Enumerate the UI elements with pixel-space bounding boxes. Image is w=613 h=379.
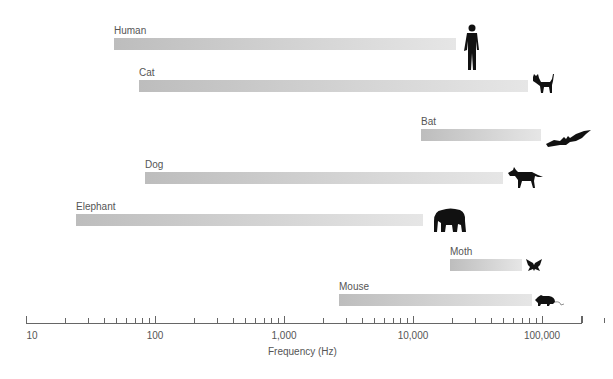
bar-elephant	[76, 214, 423, 226]
elephant-icon	[432, 207, 468, 233]
axis-tick	[362, 318, 363, 323]
bar-human	[114, 38, 456, 50]
axis-tick	[522, 318, 523, 323]
axis-tick	[149, 318, 150, 323]
axis-tick	[413, 316, 414, 323]
axis-tick	[529, 318, 530, 323]
axis-tick	[491, 318, 492, 323]
axis-tick	[407, 318, 408, 323]
label-elephant: Elephant	[76, 201, 115, 212]
axis-tick	[374, 318, 375, 323]
dog-icon	[508, 167, 544, 189]
tick-label-10: 10	[26, 330, 37, 341]
human-icon	[461, 24, 483, 72]
axis-tick	[233, 318, 234, 323]
axis-tick	[452, 318, 453, 323]
label-mouse: Mouse	[339, 281, 369, 292]
axis-tick	[536, 318, 537, 323]
axis-tick	[142, 318, 143, 323]
axis-tick	[271, 318, 272, 323]
axis-tick	[346, 318, 347, 323]
axis-tick	[255, 318, 256, 323]
axis-tick	[155, 316, 156, 323]
label-moth: Moth	[450, 246, 472, 257]
axis-tick	[513, 318, 514, 323]
axis-tick	[278, 318, 279, 323]
cat-icon	[532, 73, 556, 95]
moth-icon	[526, 259, 542, 272]
x-axis-title: Frequency (Hz)	[268, 346, 337, 357]
tick-label-10000: 10,000	[398, 330, 429, 341]
bar-dog	[145, 172, 503, 184]
axis-tick	[245, 318, 246, 323]
bar-moth	[450, 259, 522, 271]
label-cat: Cat	[139, 67, 155, 78]
axis-tick	[104, 318, 105, 323]
axis-tick	[475, 318, 476, 323]
axis-tick	[284, 316, 285, 323]
axis-tick	[217, 318, 218, 323]
bar-cat	[139, 80, 528, 92]
axis-tick	[393, 318, 394, 323]
axis-tick	[126, 318, 127, 323]
axis-tick	[542, 316, 543, 323]
bar-bat	[421, 129, 541, 141]
axis-tick	[604, 318, 605, 323]
axis-tick	[116, 318, 117, 323]
axis-tick	[65, 318, 66, 323]
axis-tick	[26, 316, 27, 323]
axis-tick	[384, 318, 385, 323]
axis-tick	[400, 318, 401, 323]
bat-icon	[546, 128, 592, 148]
tick-label-100000: 100,000	[524, 330, 560, 341]
axis-tick	[323, 318, 324, 323]
label-bat: Bat	[421, 116, 436, 127]
bar-mouse	[339, 294, 532, 306]
axis-tick	[88, 318, 89, 323]
mouse-icon	[535, 294, 565, 308]
x-axis-line	[26, 323, 582, 324]
tick-label-1000: 1,000	[271, 330, 296, 341]
axis-tick	[503, 318, 504, 323]
axis-tick	[582, 316, 583, 323]
axis-tick	[194, 318, 195, 323]
axis-tick	[135, 318, 136, 323]
label-dog: Dog	[145, 159, 163, 170]
tick-label-100: 100	[147, 330, 164, 341]
axis-tick	[264, 318, 265, 323]
label-human: Human	[114, 25, 146, 36]
